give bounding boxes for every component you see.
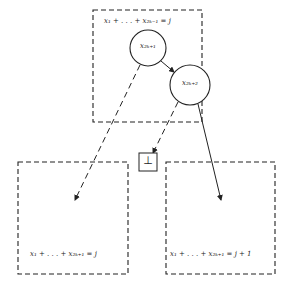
edge-a-to-b (161, 61, 174, 72)
top-box-label: x₁ + . . . + x₂ₖ₋₁ = j (104, 17, 171, 25)
right-box-label: x₁ + . . . + x₂ₖ₊₁ = j + 1 (170, 250, 252, 258)
edge-b-to-bottom (153, 102, 178, 153)
left-box-label: x₁ + . . . + x₂ₖ₊₁ = j (30, 250, 97, 258)
node-b-label: x₂ₖ₊₂ (170, 79, 210, 87)
edge-a-to-left (75, 65, 140, 200)
node-a-label: x₂ₖ₊₁ (130, 42, 166, 50)
bottom-symbol: ⊥ (139, 154, 157, 167)
edge-b-to-right (198, 104, 221, 200)
